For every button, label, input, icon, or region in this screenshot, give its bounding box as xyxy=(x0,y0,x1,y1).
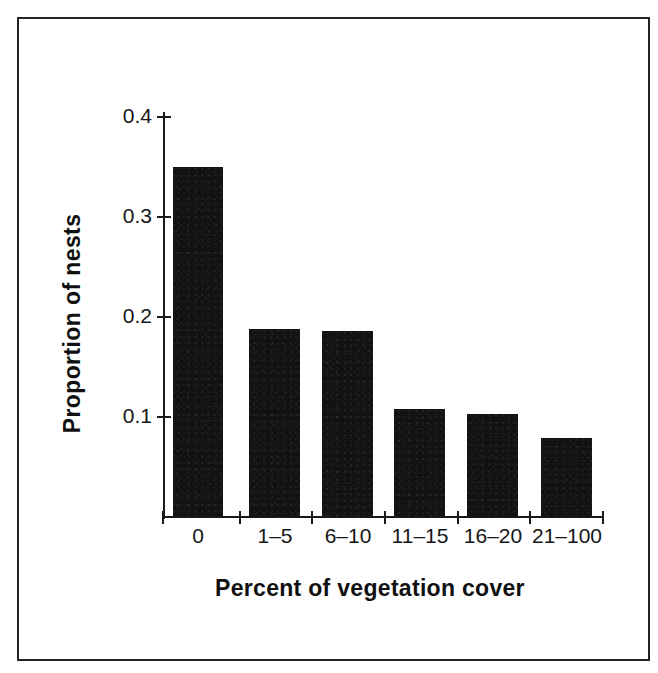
bar-chart-plot: 0.4 0.3 0.2 0.1 0 1–5 6–10 11– xyxy=(0,0,658,673)
x-tick-label-1: 1–5 xyxy=(235,525,315,546)
y-tick-label-0.3: 0.3 xyxy=(106,205,152,226)
y-tick-mark-0.2 xyxy=(157,316,171,318)
y-tick-label-0.1: 0.1 xyxy=(106,405,152,426)
x-tick-mark-6 xyxy=(602,511,604,524)
x-tick-mark-0 xyxy=(162,511,164,524)
x-tick-label-3: 11–15 xyxy=(380,525,460,546)
bar-category-0 xyxy=(173,167,223,517)
y-tick-label-0.4: 0.4 xyxy=(106,105,152,126)
x-tick-mark-1 xyxy=(239,511,241,524)
x-tick-mark-3 xyxy=(384,511,386,524)
y-tick-label-0.2: 0.2 xyxy=(106,305,152,326)
x-tick-mark-4 xyxy=(457,511,459,524)
figure-container: 0.4 0.3 0.2 0.1 0 1–5 6–10 11– xyxy=(0,0,658,673)
bar-category-2 xyxy=(322,331,373,517)
bar-category-5 xyxy=(541,438,592,517)
bar-category-4 xyxy=(467,414,518,517)
x-tick-mark-5 xyxy=(529,511,531,524)
x-axis-title: Percent of vegetation cover xyxy=(120,575,620,602)
bar-category-1 xyxy=(249,329,300,517)
x-tick-mark-2 xyxy=(311,511,313,524)
y-tick-mark-0.1 xyxy=(157,416,171,418)
x-tick-label-2: 6–10 xyxy=(308,525,388,546)
x-tick-label-0: 0 xyxy=(158,525,238,546)
bar-category-3 xyxy=(394,409,445,517)
y-axis-title: Proportion of nests xyxy=(59,204,86,444)
y-tick-mark-0.4 xyxy=(157,116,171,118)
x-tick-label-5: 21–100 xyxy=(521,525,613,546)
y-tick-mark-0.3 xyxy=(157,216,171,218)
